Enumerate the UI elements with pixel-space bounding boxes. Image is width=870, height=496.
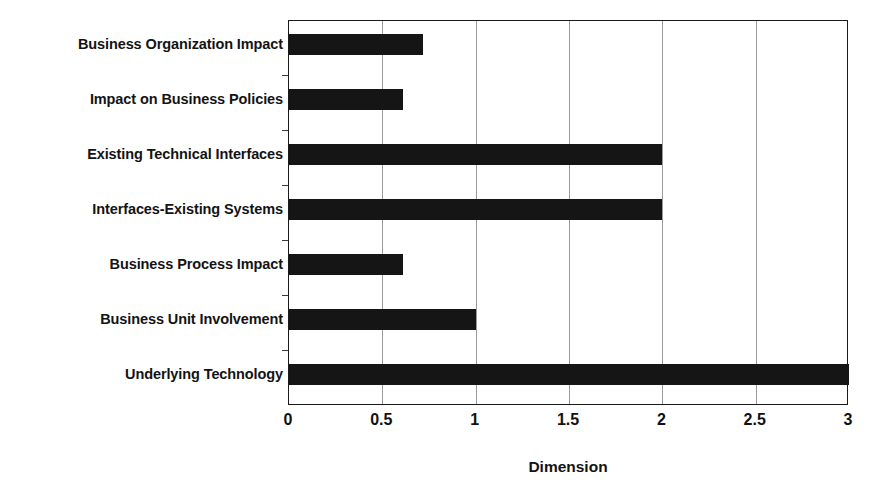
bar [289, 254, 403, 275]
bar [289, 89, 403, 110]
plot-area [288, 20, 848, 405]
category-label: Underlying Technology [0, 367, 283, 382]
x-axis-title: Dimension [288, 459, 848, 475]
x-axis-tick-label: 1 [470, 412, 479, 428]
x-axis-tick-label: 2 [657, 412, 666, 428]
x-axis-tick-label: 3 [844, 412, 853, 428]
bar [289, 309, 476, 330]
x-axis-tick-label: 1.5 [557, 412, 579, 428]
category-label: Interfaces-Existing Systems [0, 202, 283, 217]
category-label: Business Unit Involvement [0, 312, 283, 327]
x-axis-tick-label: 0 [284, 412, 293, 428]
category-label: Impact on Business Policies [0, 92, 283, 107]
bar-chart: Business Organization ImpactImpact on Bu… [0, 0, 870, 496]
category-label: Existing Technical Interfaces [0, 147, 283, 162]
x-axis-tick-labels: 00.511.522.53 [288, 412, 848, 436]
bar [289, 364, 849, 385]
bars-layer [289, 21, 847, 404]
bar [289, 34, 423, 55]
bar [289, 144, 662, 165]
category-label: Business Organization Impact [0, 37, 283, 52]
bar [289, 199, 662, 220]
x-axis-tick-label: 2.5 [744, 412, 766, 428]
x-axis-tick-label: 0.5 [370, 412, 392, 428]
category-label: Business Process Impact [0, 257, 283, 272]
category-axis-labels: Business Organization ImpactImpact on Bu… [0, 20, 283, 405]
